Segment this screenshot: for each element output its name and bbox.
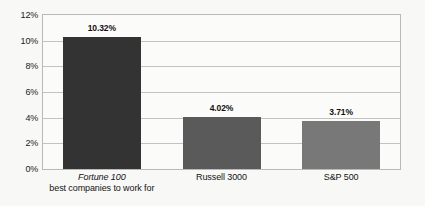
bar-chart: 0%2%4%6%8%10%12% 10.32%4.02%3.71% Fortun… bbox=[0, 0, 425, 206]
bar[interactable] bbox=[183, 117, 261, 169]
bar[interactable] bbox=[63, 37, 141, 169]
y-tick-label: 2% bbox=[25, 139, 38, 148]
bar-value-label: 3.71% bbox=[329, 107, 353, 117]
x-tick-label-primary: S&P 500 bbox=[281, 172, 401, 183]
y-tick-label: 8% bbox=[25, 62, 38, 71]
y-tick-label: 6% bbox=[25, 88, 38, 97]
y-tick-label: 4% bbox=[25, 113, 38, 122]
x-axis: Fortune 100best companies to work forRus… bbox=[42, 172, 401, 206]
y-tick-label: 10% bbox=[21, 36, 38, 45]
bar-value-label: 4.02% bbox=[210, 103, 234, 113]
bar-group[interactable]: 10.32% bbox=[63, 13, 141, 169]
y-axis: 0%2%4%6%8%10%12% bbox=[0, 14, 38, 170]
bar-group[interactable]: 4.02% bbox=[183, 93, 261, 169]
bar[interactable] bbox=[302, 121, 380, 169]
x-tick-label: Fortune 100best companies to work for bbox=[42, 172, 162, 194]
x-tick-label-secondary: best companies to work for bbox=[42, 183, 162, 194]
bar-group[interactable]: 3.71% bbox=[302, 97, 380, 169]
y-tick-label: 0% bbox=[25, 165, 38, 174]
bars-layer: 10.32%4.02%3.71% bbox=[42, 14, 401, 170]
bar-value-label: 10.32% bbox=[88, 23, 116, 33]
x-tick-label: S&P 500 bbox=[281, 172, 401, 183]
y-tick-label: 12% bbox=[21, 11, 38, 20]
x-tick-label: Russell 3000 bbox=[162, 172, 282, 183]
x-tick-label-primary: Fortune 100 bbox=[42, 172, 162, 183]
x-tick-label-primary: Russell 3000 bbox=[162, 172, 282, 183]
